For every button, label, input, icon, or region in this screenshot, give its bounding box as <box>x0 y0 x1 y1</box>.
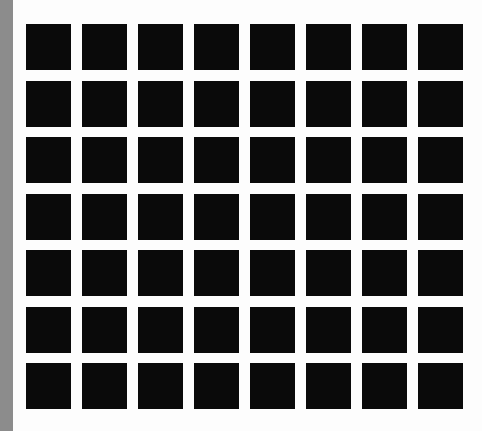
grid-square <box>418 81 463 127</box>
grid-square <box>306 307 351 353</box>
grid-square <box>26 250 71 296</box>
grid-square <box>82 307 127 353</box>
grid-square <box>26 137 71 183</box>
grid-square <box>306 24 351 70</box>
grid-square <box>138 81 183 127</box>
grid-square <box>362 137 407 183</box>
grid-square <box>194 250 239 296</box>
grid-square <box>82 194 127 240</box>
left-gray-strip <box>0 0 13 431</box>
grid-square <box>362 194 407 240</box>
grid-square <box>250 24 295 70</box>
grid-square <box>82 250 127 296</box>
grid-square <box>194 307 239 353</box>
grid-square <box>250 307 295 353</box>
grid-square <box>194 363 239 409</box>
grid-square <box>194 24 239 70</box>
grid-square <box>306 137 351 183</box>
grid-square <box>306 194 351 240</box>
grid-square <box>362 363 407 409</box>
grid-square <box>26 194 71 240</box>
grid-square <box>194 137 239 183</box>
grid-square <box>138 24 183 70</box>
grid-square <box>418 250 463 296</box>
grid-square <box>418 194 463 240</box>
grid-square <box>306 81 351 127</box>
grid-square <box>418 363 463 409</box>
grid-square <box>250 194 295 240</box>
grid-square <box>26 81 71 127</box>
grid-square <box>250 250 295 296</box>
grid-square <box>138 194 183 240</box>
grid-square <box>138 307 183 353</box>
grid-square <box>250 81 295 127</box>
grid-square <box>194 194 239 240</box>
grid-square <box>138 137 183 183</box>
grid-square <box>26 307 71 353</box>
grid-square <box>138 250 183 296</box>
grid-square <box>418 137 463 183</box>
grid-square <box>250 137 295 183</box>
grid-square <box>362 24 407 70</box>
grid-square <box>362 307 407 353</box>
grid-square <box>306 363 351 409</box>
grid-square <box>306 250 351 296</box>
grid-square <box>82 81 127 127</box>
grid-square <box>418 24 463 70</box>
hermann-grid <box>26 24 463 409</box>
grid-square <box>26 24 71 70</box>
grid-square <box>82 137 127 183</box>
grid-square <box>82 363 127 409</box>
grid-square <box>250 363 295 409</box>
grid-square <box>194 81 239 127</box>
grid-square <box>418 307 463 353</box>
grid-square <box>82 24 127 70</box>
grid-square <box>26 363 71 409</box>
grid-square <box>138 363 183 409</box>
grid-square <box>362 250 407 296</box>
grid-square <box>362 81 407 127</box>
